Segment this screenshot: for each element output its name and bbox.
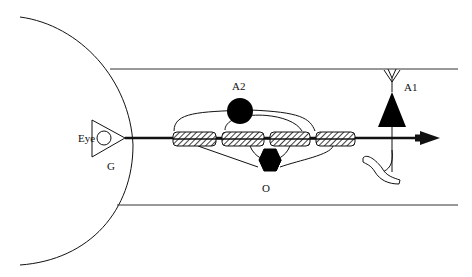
oligodendrocyte-cell [259, 149, 281, 171]
label-eye: Eye [78, 132, 95, 144]
neuron-diagram: Eye G A2 A1 O [0, 0, 472, 277]
amacrine2-cell [227, 98, 253, 124]
label-oligodendrocyte: O [262, 182, 270, 194]
label-amacrine2: A2 [232, 80, 245, 92]
ganglion-nucleus [97, 131, 111, 145]
amacrine1-cell [378, 92, 406, 127]
label-ganglion: G [107, 160, 115, 172]
blood-vessel [363, 156, 400, 184]
label-amacrine1: A1 [404, 81, 417, 93]
